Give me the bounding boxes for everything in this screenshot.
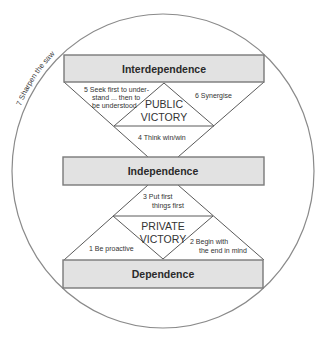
habit-2-line1: 2 Begin with: [190, 238, 228, 246]
independence-label: Independence: [128, 165, 199, 177]
private-victory-line2: VICTORY: [140, 233, 186, 245]
seven-habits-diagram: 7 Sharpen the saw Interdependence Indepe…: [0, 0, 322, 339]
habit-7-label: 7 Sharpen the saw: [14, 49, 56, 107]
habit-3-line1: 3 Put first: [143, 193, 173, 200]
interdependence-label: Interdependence: [122, 63, 206, 75]
public-victory-line2: VICTORY: [141, 111, 187, 123]
habit-2-line2: the end in mind: [199, 247, 247, 254]
habit-6-label: 6 Synergise: [195, 92, 232, 100]
habit-5-line2: stand ... then to: [92, 94, 140, 101]
habit-3-line2: things first: [152, 202, 184, 210]
habit-1-label: 1 Be proactive: [89, 245, 134, 253]
habit-4-label: 4 Think win/win: [138, 134, 186, 141]
private-victory-line1: PRIVATE: [141, 220, 184, 232]
habit-5-line3: be understood: [92, 102, 137, 109]
dependence-label: Dependence: [132, 268, 195, 280]
public-victory-line1: PUBLIC: [145, 98, 183, 110]
habit-5-line1: 5 Seek first to under-: [84, 86, 150, 93]
